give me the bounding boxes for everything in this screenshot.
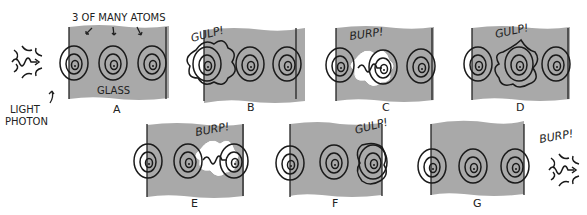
- panel-e: BURP! E: [134, 120, 248, 210]
- atoms-annotation: 3 OF MANY ATOMS: [72, 12, 166, 23]
- panel-g: BURP! G: [418, 121, 579, 210]
- panel-d: GULP! D: [464, 21, 570, 114]
- panel-letter-g: G: [473, 197, 482, 210]
- burp-label-g: BURP!: [538, 127, 574, 146]
- panel-letter-b: B: [247, 101, 255, 114]
- panel-letter-a: A: [113, 103, 121, 116]
- panel-letter-e: E: [191, 197, 198, 210]
- photon-absorption-diagram: 3 OF MANY ATOMS GLASS LIGHT PHOTON A GUL…: [0, 0, 587, 215]
- light-photon-icon: [12, 46, 42, 78]
- panel-a: 3 OF MANY ATOMS GLASS LIGHT PHOTON A: [5, 12, 169, 127]
- glass-label: GLASS: [97, 85, 130, 96]
- light-label: LIGHT: [10, 104, 41, 115]
- photon-label: PHOTON: [5, 116, 48, 127]
- panel-b: GULP! B: [187, 24, 305, 114]
- panel-f: GULP! F: [276, 116, 389, 210]
- panel-letter-c: C: [382, 101, 390, 114]
- panel-letter-f: F: [332, 197, 338, 210]
- emitted-photon-icon: [549, 154, 579, 186]
- panel-c: BURP! C: [326, 25, 435, 114]
- panel-letter-d: D: [516, 101, 524, 114]
